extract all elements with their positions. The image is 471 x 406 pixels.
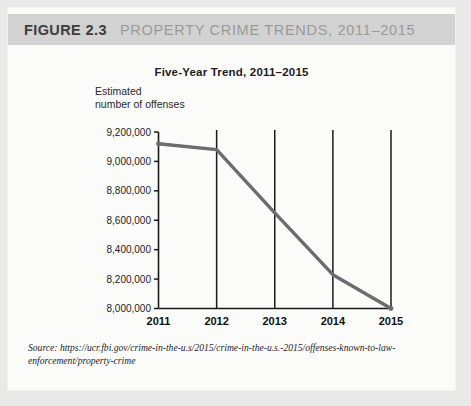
vertical-gridlines (217, 130, 391, 309)
chart-area: Five-Year Trend, 2011–2015 Estimated num… (8, 53, 455, 338)
figure-card: FIGURE 2.3 PROPERTY CRIME TRENDS, 2011–2… (8, 8, 455, 390)
y-tick-label: 8,200,000 (107, 274, 152, 285)
y-tick-labels: 8,000,0008,200,0008,400,0008,600,0008,80… (107, 127, 152, 315)
x-tick-label: 2011 (147, 315, 171, 327)
y-tick-label: 9,000,000 (107, 156, 152, 167)
y-tick-label: 8,000,000 (107, 303, 152, 314)
y-tick-label: 9,200,000 (107, 127, 152, 138)
x-tick-label: 2013 (263, 315, 287, 327)
source-note: Source: https://ucr.fbi.gov/crime-in-the… (28, 342, 448, 367)
x-tick-label: 2012 (204, 315, 228, 327)
data-point-marker (389, 306, 394, 311)
x-tick-label: 2014 (321, 315, 346, 327)
y-tick-label: 8,800,000 (107, 185, 152, 196)
x-tick-label: 2015 (379, 315, 403, 327)
figure-number: FIGURE 2.3 (24, 22, 107, 38)
figure-title: PROPERTY CRIME TRENDS, 2011–2015 (120, 22, 415, 38)
x-tick-labels: 20112012201320142015 (147, 315, 404, 327)
figure-header: FIGURE 2.3 PROPERTY CRIME TRENDS, 2011–2… (8, 14, 455, 45)
line-chart-plot: 8,000,0008,200,0008,400,0008,600,0008,80… (8, 53, 455, 338)
data-point-marker (156, 141, 161, 146)
y-tick-label: 8,600,000 (107, 215, 152, 226)
y-tick-label: 8,400,000 (107, 244, 152, 255)
